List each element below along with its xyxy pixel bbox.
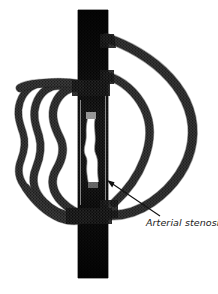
arterial-stenosis-diagram: [0, 0, 218, 294]
collateral-left-feeder: [20, 82, 80, 88]
annotation-label: Arterial stenosis: [146, 217, 218, 228]
figure-root: Arterial stenosis: [0, 0, 218, 294]
figure-caption: [34, 282, 138, 290]
